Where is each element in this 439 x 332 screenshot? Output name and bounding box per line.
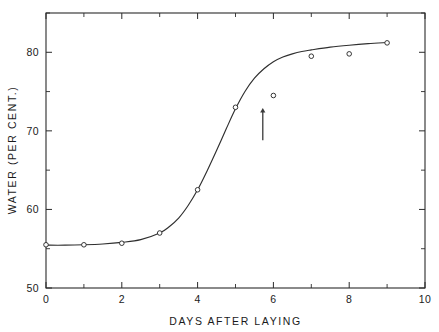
x-axis-tick-labels: 0246810 [43,293,431,305]
up-arrow-head-icon [260,108,265,113]
y-tick-label-2: 70 [27,125,39,137]
x-tick-label-5: 10 [419,293,431,305]
y-axis-major-ticks [46,52,425,288]
annotation-layer [260,108,265,140]
plot-frame [46,13,425,288]
figure-container: 0246810 50607080 DAYS AFTER LAYING WATER… [0,0,439,332]
x-tick-label-0: 0 [43,293,49,305]
y-axis-minor-ticks [46,13,425,249]
y-tick-label-3: 80 [27,46,39,58]
x-axis-minor-ticks [84,13,387,288]
data-point [347,52,352,57]
data-point [271,93,276,98]
y-tick-label-0: 50 [27,282,39,294]
data-point [195,187,200,192]
y-axis-tick-labels: 50607080 [27,46,39,294]
x-tick-label-2: 4 [194,293,200,305]
data-point [233,105,238,110]
x-tick-label-3: 6 [270,293,276,305]
data-point [157,231,162,236]
data-point-group [44,41,390,248]
x-tick-label-4: 8 [346,293,352,305]
x-axis-title: DAYS AFTER LAYING [169,315,301,327]
data-point [44,242,49,247]
data-point [82,242,87,247]
data-point [309,54,314,59]
x-axis-major-ticks [46,13,425,288]
water-content-scatter-chart: 0246810 50607080 DAYS AFTER LAYING WATER… [0,0,439,332]
data-point [120,241,125,246]
fitted-sigmoid-curve [46,42,387,245]
y-tick-label-1: 60 [27,203,39,215]
x-tick-label-1: 2 [119,293,125,305]
data-point [385,41,390,46]
y-axis-title: WATER (PER CENT.) [6,86,18,215]
